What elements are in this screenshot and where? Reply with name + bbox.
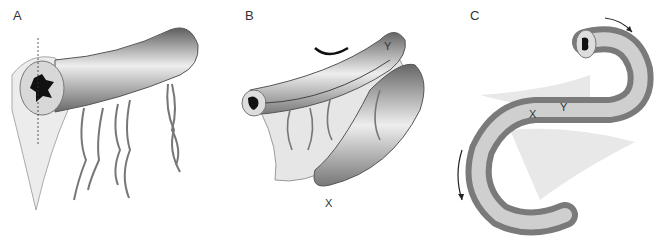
s-loop-illustration: [440, 0, 664, 239]
panel-a: A: [0, 0, 220, 239]
marker-x-b: X: [325, 197, 332, 209]
marker-x-c: X: [529, 108, 536, 120]
bowel-segment-illustration: [0, 0, 220, 239]
marker-y-c: Y: [560, 101, 567, 113]
panel-c: C X Y: [440, 0, 664, 239]
panel-b: B Y X: [220, 0, 440, 239]
marker-y-b: Y: [384, 40, 391, 52]
